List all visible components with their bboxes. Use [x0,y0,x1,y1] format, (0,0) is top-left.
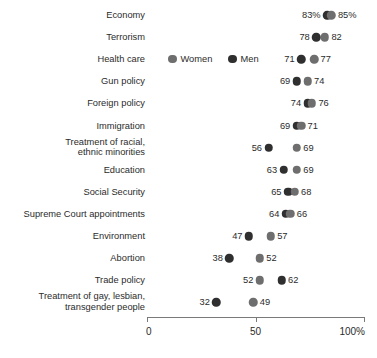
axis-tick [364,317,365,322]
legend-label: Women [181,54,213,64]
row-plot-area: 5262 [0,269,377,291]
dot-men [292,77,301,86]
row-plot-area: 5669 [0,137,377,159]
legend-dot-men [228,55,237,64]
chart-row: Education6369 [0,159,377,181]
axis-tick-label: 0 [146,326,152,337]
chart-row: Immigration6971 [0,115,377,137]
dot-men [279,165,288,174]
chart-row: Economy83%85% [0,4,377,26]
dot-women [292,165,301,174]
value-label-left: 65 [271,187,281,197]
dot-women [266,232,275,241]
x-axis: 050100% [0,317,377,357]
value-label-left: 32 [200,297,210,307]
axis-tick-label: 50 [250,326,261,337]
value-label-right: 69 [303,143,313,153]
value-label-left: 63 [267,165,277,175]
dot-women [256,276,265,285]
dot-women [327,11,336,20]
dot-men [312,33,321,42]
dot-men [264,143,273,152]
chart-row: Gun policy6974 [0,70,377,92]
value-label-left: 83% [302,10,321,20]
value-label-right: 74 [314,76,324,86]
dot-women [256,254,265,263]
chart-row: Terrorism7882 [0,26,377,48]
legend-dot-women [168,55,177,64]
row-plot-area: 3249 [0,291,377,313]
dot-men [297,55,306,64]
chart-row: Health care7177WomenMen [0,48,377,70]
dot-women [321,33,330,42]
dot-women [290,188,299,197]
value-label-right: 69 [303,165,313,175]
value-label-right: 77 [321,54,331,64]
value-label-right: 66 [297,209,307,219]
chart-row: Social Security6568 [0,181,377,203]
row-plot-area: 7882 [0,26,377,48]
axis-tick-label: 100% [339,326,365,337]
value-label-left: 47 [232,231,242,241]
legend-item-women[interactable]: Women [168,54,212,64]
dot-women [303,77,312,86]
value-label-right: 52 [266,253,276,263]
dot-men [225,254,234,263]
dot-women [292,143,301,152]
value-label-left: 69 [280,121,290,131]
value-label-left: 56 [252,143,262,153]
dot-women [286,210,295,219]
dot-men [277,276,286,285]
dot-men [212,298,221,307]
chart-row: Environment4757 [0,225,377,247]
row-plot-area: 6974 [0,70,377,92]
value-label-left: 64 [269,209,279,219]
chart-row: Treatment of racial, ethnic minorities56… [0,137,377,159]
value-label-left: 52 [243,275,253,285]
chart-row: Abortion3852 [0,247,377,269]
value-label-left: 38 [213,253,223,263]
row-plot-area: 4757 [0,225,377,247]
value-label-right: 49 [260,297,270,307]
chart-row: Foreign policy7476 [0,92,377,114]
row-plot-area: 7476 [0,92,377,114]
chart-row: Trade policy5262 [0,269,377,291]
dot-women [297,121,306,130]
legend-label: Men [241,54,259,64]
axis-tick [256,317,257,322]
value-label-left: 74 [291,98,301,108]
dot-men [245,232,254,241]
chart-row: Treatment of gay, lesbian, transgender p… [0,291,377,313]
dot-women [249,298,258,307]
row-plot-area: 6369 [0,159,377,181]
value-label-left: 69 [280,76,290,86]
legend-item-men[interactable]: Men [228,54,259,64]
value-label-left: 78 [299,32,309,42]
value-label-left: 71 [284,54,294,64]
value-label-right: 82 [331,32,341,42]
row-plot-area: 6466 [0,203,377,225]
value-label-right: 68 [301,187,311,197]
dot-women [310,55,319,64]
dot-plot-chart: Economy83%85%Terrorism7882Health care717… [0,0,377,358]
row-plot-area: 6568 [0,181,377,203]
value-label-right: 57 [277,231,287,241]
value-label-right: 85% [338,10,357,20]
value-label-right: 76 [318,98,328,108]
row-plot-area: 83%85% [0,4,377,26]
row-plot-area: 6971 [0,115,377,137]
axis-tick [147,317,148,322]
value-label-right: 71 [308,121,318,131]
row-plot-area: 3852 [0,247,377,269]
chart-row: Supreme Court appointments6466 [0,203,377,225]
value-label-right: 62 [288,275,298,285]
dot-women [308,99,317,108]
